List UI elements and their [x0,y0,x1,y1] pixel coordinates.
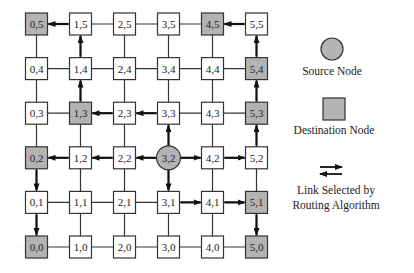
destination-node: 0,2 [26,147,48,169]
legend: Source Node Destination Node Link Select… [292,38,379,212]
destination-node: 0,0 [26,236,48,258]
node-label: 3,1 [162,196,176,208]
destination-node: 5,3 [246,102,268,124]
mesh-node: 5,2 [246,147,268,169]
mesh-node: 1,5 [70,13,92,35]
mesh-node: 0,1 [26,191,48,213]
mesh-node: 4,2 [202,147,224,169]
node-label: 1,1 [74,196,88,208]
legend-link-label-line2: Routing Algorithm [292,199,379,212]
node-label: 5,3 [250,107,264,119]
node-label: 2,4 [118,63,132,75]
mesh-node: 2,3 [114,102,136,124]
node-label: 4,5 [206,18,220,30]
destination-node: 1,3 [70,102,92,124]
destination-node: 0,5 [26,13,48,35]
node-label: 4,4 [206,63,220,75]
mesh-node: 1,0 [70,236,92,258]
mesh-node: 2,0 [114,236,136,258]
node-label: 1,5 [74,18,88,30]
node-label: 5,0 [250,241,264,253]
mesh-node: 4,4 [202,58,224,80]
node-label: 2,5 [118,18,132,30]
node-label: 4,1 [206,196,220,208]
node-label: 2,0 [118,241,132,253]
node-label: 3,5 [162,18,176,30]
mesh-node: 0,4 [26,58,48,80]
destination-node: 4,5 [202,13,224,35]
node-label: 3,0 [162,241,176,253]
node-label: 4,2 [206,152,220,164]
mesh-nodes: 0,51,52,53,54,55,50,41,42,43,44,45,40,31… [26,13,268,258]
node-label: 3,4 [162,63,176,75]
mesh-node: 1,2 [70,147,92,169]
node-label: 0,4 [30,63,44,75]
mesh-node: 3,1 [158,191,180,213]
legend-destination-icon [323,98,345,120]
node-label: 3,2 [162,152,176,164]
mesh-node: 3,5 [158,13,180,35]
node-label: 1,4 [74,63,88,75]
legend-link-label-line1: Link Selected by [297,184,375,197]
mesh-node: 2,1 [114,191,136,213]
mesh-node: 4,1 [202,191,224,213]
node-label: 0,5 [30,18,44,30]
legend-destination-label: Destination Node [294,124,375,136]
node-label: 2,1 [118,196,132,208]
node-label: 5,2 [250,152,264,164]
mesh-node: 2,2 [114,147,136,169]
node-label: 0,3 [30,107,44,119]
node-label: 5,1 [250,196,264,208]
mesh-routing-diagram: 0,51,52,53,54,55,50,41,42,43,44,45,40,31… [0,0,414,273]
node-label: 0,0 [30,241,44,253]
node-label: 4,0 [206,241,220,253]
mesh-node: 2,5 [114,13,136,35]
node-label: 3,3 [162,107,176,119]
node-label: 0,1 [30,196,44,208]
mesh-node: 1,4 [70,58,92,80]
node-label: 1,0 [74,241,88,253]
destination-node: 5,4 [246,58,268,80]
destination-node: 5,0 [246,236,268,258]
destination-node: 5,1 [246,191,268,213]
mesh-node: 3,4 [158,58,180,80]
node-label: 1,2 [74,152,88,164]
source-node: 3,2 [157,146,181,170]
mesh-node: 1,1 [70,191,92,213]
mesh-node: 4,3 [202,102,224,124]
node-label: 5,5 [250,18,264,30]
legend-source-icon [321,38,343,60]
mesh-node: 3,3 [158,102,180,124]
legend-link-icon [320,167,342,174]
mesh-node: 2,4 [114,58,136,80]
node-label: 1,3 [74,107,88,119]
legend-source-label: Source Node [302,65,362,77]
mesh-node: 3,0 [158,236,180,258]
node-label: 4,3 [206,107,220,119]
mesh-node: 5,5 [246,13,268,35]
mesh-node: 0,3 [26,102,48,124]
node-label: 2,3 [118,107,132,119]
node-label: 5,4 [250,63,264,75]
mesh-node: 4,0 [202,236,224,258]
node-label: 0,2 [30,152,44,164]
node-label: 2,2 [118,152,132,164]
